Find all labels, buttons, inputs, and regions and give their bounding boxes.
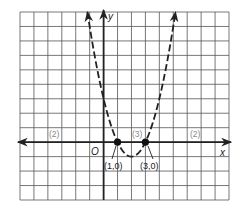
point-label-3-0: (3,0) bbox=[140, 161, 159, 171]
x-axis-label: x bbox=[219, 147, 226, 158]
graph-canvas: y x O (1,0) (3,0) (2) (3) (2) bbox=[0, 0, 239, 214]
interval-label-left: (2) bbox=[49, 129, 60, 139]
interval-label-right: (2) bbox=[190, 129, 201, 139]
intercept-point bbox=[142, 139, 149, 146]
pointer-arrow-3-0 bbox=[148, 146, 153, 159]
origin-label: O bbox=[91, 146, 99, 157]
axes bbox=[18, 10, 231, 200]
interval-label-middle: (3) bbox=[132, 129, 143, 139]
intercept-point bbox=[114, 139, 121, 146]
grid bbox=[20, 12, 229, 200]
y-axis-label: y bbox=[107, 11, 114, 22]
point-label-1-0: (1,0) bbox=[104, 161, 123, 171]
pointer-arrow-1-0 bbox=[112, 146, 116, 159]
